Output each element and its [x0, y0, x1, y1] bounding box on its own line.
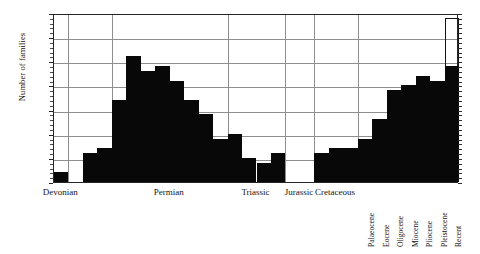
right-tick-mark [458, 173, 462, 174]
right-tick-mark [458, 24, 462, 25]
bar [126, 56, 140, 182]
bar [199, 114, 213, 182]
x-axis-epoch-label: Recent [454, 226, 463, 247]
right-tick-mark [458, 33, 462, 34]
right-tick-mark [458, 115, 462, 116]
bar [343, 148, 357, 182]
right-tick-mark [458, 77, 462, 78]
right-tick-mark [458, 120, 462, 121]
bar [184, 100, 198, 182]
bar [314, 153, 328, 182]
bar [83, 153, 97, 182]
bar [242, 158, 256, 182]
right-tick-mark [458, 125, 462, 126]
x-axis-epoch-label: Eocene [382, 225, 391, 247]
bar [430, 81, 444, 182]
bar [213, 139, 227, 182]
right-tick-mark [458, 130, 462, 131]
right-tick-mark [458, 154, 462, 155]
right-tick-mark [458, 48, 462, 49]
bar [329, 148, 343, 182]
bar [358, 139, 372, 182]
bar [54, 172, 68, 182]
right-tick-mark [458, 159, 462, 160]
bar [112, 100, 126, 182]
right-tick-mark [458, 91, 462, 92]
x-axis-epoch-label: Pliocene [425, 221, 434, 247]
right-tick-mark [458, 28, 462, 29]
bar [271, 153, 285, 182]
right-tick-mark [458, 106, 462, 107]
y-tick-mark [49, 183, 53, 184]
x-axis-epoch-label: Pleistocene [440, 212, 449, 247]
x-axis-label: Cretaceous [315, 187, 355, 197]
x-axis-epoch-label: Oligocene [396, 216, 405, 247]
right-tick-mark [458, 14, 462, 15]
right-tick-mark [458, 86, 462, 87]
bar [97, 148, 111, 182]
x-axis-epoch-label: Miocene [411, 220, 420, 247]
x-axis-label: Jurassic [285, 187, 314, 197]
bar [170, 81, 184, 182]
right-tick-mark [458, 38, 462, 39]
bar [416, 76, 430, 182]
bar [372, 119, 386, 182]
right-tick-mark [458, 57, 462, 58]
right-tick-mark [458, 62, 462, 63]
right-tick-mark [458, 164, 462, 165]
right-tick-mark [458, 67, 462, 68]
right-tick-mark [458, 183, 462, 184]
x-axis-epoch-label: Palaeocene [367, 213, 376, 247]
x-axis-label: Triassic [241, 187, 269, 197]
right-tick-mark [458, 72, 462, 73]
right-tick-mark [458, 82, 462, 83]
y-axis-title: Number of families [17, 7, 27, 127]
right-tick-mark [458, 96, 462, 97]
plot-area [53, 14, 458, 183]
right-tick-mark [458, 135, 462, 136]
right-tick-mark [458, 53, 462, 54]
right-tick-mark [458, 169, 462, 170]
bar [228, 134, 242, 182]
right-tick-mark [458, 111, 462, 112]
right-tick-mark [458, 144, 462, 145]
right-tick-mark [458, 19, 462, 20]
right-tick-mark [458, 149, 462, 150]
bar [141, 71, 155, 182]
bar [387, 90, 401, 182]
bar [401, 85, 415, 182]
bar-series [54, 15, 457, 182]
chart-figure: Number of families 05101520253035 Devoni… [0, 0, 480, 254]
x-axis-label: Permian [154, 187, 184, 197]
right-tick-mark [458, 43, 462, 44]
bar [445, 66, 459, 182]
right-tick-mark [458, 101, 462, 102]
right-tick-mark [458, 178, 462, 179]
bar [257, 163, 271, 182]
bar [155, 66, 169, 182]
right-tick-mark [458, 140, 462, 141]
x-axis-label: Devonian [43, 187, 78, 197]
